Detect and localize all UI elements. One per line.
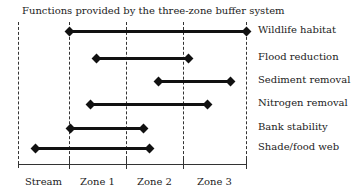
boundary-line (183, 22, 184, 164)
function-range-bar (90, 103, 207, 106)
range-endpoint-marker (66, 124, 76, 134)
diagram-title: Functions provided by the three-zone buf… (22, 5, 285, 16)
range-endpoint-marker (31, 144, 41, 154)
boundary-line (246, 22, 247, 164)
zone-label-zone1: Zone 1 (69, 176, 126, 187)
function-label: Flood reduction (258, 51, 339, 62)
function-range-bar (70, 127, 143, 130)
function-label: Sediment removal (258, 74, 350, 85)
function-range-bar (69, 30, 246, 33)
function-label: Shade/food web (258, 141, 339, 152)
function-label: Bank stability (258, 121, 328, 132)
boundary-line (18, 22, 19, 164)
axis-tick (126, 159, 127, 169)
axis-tick (183, 159, 184, 169)
range-endpoint-marker (86, 100, 96, 110)
zone-label-zone2: Zone 2 (126, 176, 183, 187)
function-range-bar (35, 147, 149, 150)
range-endpoint-marker (154, 77, 164, 87)
function-range-bar (96, 57, 188, 60)
range-endpoint-marker (203, 100, 213, 110)
axis-tick (69, 159, 70, 169)
zone-label-zone3: Zone 3 (186, 176, 243, 187)
x-axis (18, 164, 247, 165)
axis-tick (246, 159, 247, 169)
function-range-bar (158, 80, 230, 83)
boundary-line (126, 22, 127, 164)
range-endpoint-marker (184, 54, 194, 64)
range-endpoint-marker (226, 77, 236, 87)
range-endpoint-marker (92, 54, 102, 64)
range-endpoint-marker (145, 144, 155, 154)
boundary-line (69, 22, 70, 164)
function-label: Wildlife habitat (258, 24, 336, 35)
zone-label-stream: Stream (15, 176, 72, 187)
function-label: Nitrogen removal (258, 97, 348, 108)
axis-tick (18, 164, 19, 168)
range-endpoint-marker (139, 124, 149, 134)
range-endpoint-marker (65, 27, 75, 37)
range-endpoint-marker (242, 27, 252, 37)
